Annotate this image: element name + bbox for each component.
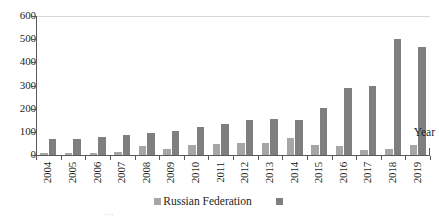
bar	[385, 149, 393, 155]
bar	[270, 119, 278, 155]
x-axis-tick-mark	[258, 156, 259, 160]
bar-group	[208, 16, 233, 155]
caption-fragment: ···	[104, 210, 114, 217]
x-axis-tick-label: 2009	[165, 162, 176, 183]
x-axis-tick-label: 2015	[313, 162, 324, 183]
bar	[40, 153, 48, 155]
x-axis-tick-label: 2018	[387, 162, 398, 183]
x-axis-tick-label: 2012	[239, 162, 250, 183]
bar-group	[110, 16, 135, 155]
bar	[114, 152, 122, 155]
x-axis-tick-mark	[61, 156, 62, 160]
bar	[172, 131, 180, 155]
y-axis: 0100200300400500600	[0, 0, 36, 220]
bar	[73, 139, 81, 155]
bar-group	[356, 16, 381, 155]
bar	[295, 120, 303, 155]
x-axis-tick-label: 2006	[92, 162, 103, 183]
x-axis-tick-mark	[233, 156, 234, 160]
x-axis-tick-mark	[430, 156, 431, 160]
bar	[369, 86, 377, 156]
x-axis-title: Year	[414, 126, 435, 138]
bar	[139, 146, 147, 155]
bar-group	[258, 16, 283, 155]
x-axis-tick-mark	[282, 156, 283, 160]
bar-group	[85, 16, 110, 155]
bar-group	[307, 16, 332, 155]
bar	[197, 127, 205, 155]
x-axis-tick-mark	[135, 156, 136, 160]
x-axis-tick-label: 2016	[338, 162, 349, 183]
x-axis-tick-mark	[159, 156, 160, 160]
bar	[49, 139, 57, 155]
bar	[221, 124, 229, 155]
x-axis-tick-mark	[36, 156, 37, 160]
bar	[320, 108, 328, 155]
x-axis-tick-mark	[85, 156, 86, 160]
bar	[147, 133, 155, 155]
x-axis-tick-label: 2013	[264, 162, 275, 183]
legend-item[interactable]	[276, 198, 285, 205]
x-axis-tick-mark	[332, 156, 333, 160]
x-axis-tick-mark	[208, 156, 209, 160]
bar-group	[36, 16, 61, 155]
x-axis-tick-label: 2010	[190, 162, 201, 183]
legend-item[interactable]: Russian Federation	[154, 195, 251, 207]
bar-group	[184, 16, 209, 155]
bar	[262, 143, 270, 155]
x-axis-tick-mark	[184, 156, 185, 160]
bar-group	[159, 16, 184, 155]
bar	[188, 145, 196, 155]
x-axis-tick-label: 2005	[67, 162, 78, 183]
x-axis-tick-label: 2004	[42, 162, 53, 183]
legend-swatch	[154, 198, 161, 205]
bar	[98, 137, 106, 155]
bar	[410, 145, 418, 155]
legend-label: Russian Federation	[163, 195, 251, 207]
bar	[360, 150, 368, 155]
bar	[344, 88, 352, 155]
x-axis-tick-mark	[405, 156, 406, 160]
x-axis-tick-mark	[381, 156, 382, 160]
bar	[311, 145, 319, 155]
bar-chart-figure: 0100200300400500600 Year Russian Federat…	[0, 0, 439, 220]
x-axis-tick-label: 2017	[362, 162, 373, 183]
chart-legend: Russian Federation	[0, 194, 439, 208]
x-axis-tick-label: 2011	[215, 162, 226, 183]
bar	[90, 153, 98, 155]
bar	[65, 153, 73, 155]
bar-group	[233, 16, 258, 155]
x-axis-tick-label: 2019	[412, 162, 423, 183]
bar	[237, 143, 245, 155]
bar	[163, 149, 171, 155]
bar	[336, 146, 344, 155]
x-axis-tick-label: 2014	[289, 162, 300, 183]
x-axis-tick-label: 2007	[116, 162, 127, 183]
x-axis-tick-label: 2008	[141, 162, 152, 183]
x-axis-tick-mark	[356, 156, 357, 160]
bar-group	[61, 16, 86, 155]
bar-group	[282, 16, 307, 155]
bar	[123, 135, 131, 155]
bar	[394, 39, 402, 155]
bar-group	[135, 16, 160, 155]
legend-swatch	[276, 198, 283, 205]
bar	[418, 47, 426, 155]
bar-group	[381, 16, 406, 155]
bar	[246, 120, 254, 155]
x-axis-tick-mark	[307, 156, 308, 160]
x-axis-tick-mark	[110, 156, 111, 160]
bar	[287, 138, 295, 155]
bars-layer	[36, 16, 430, 155]
bar-group	[332, 16, 357, 155]
bar	[213, 144, 221, 155]
